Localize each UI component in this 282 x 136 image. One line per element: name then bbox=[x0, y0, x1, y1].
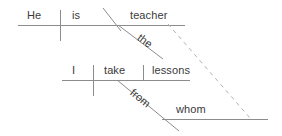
label-subject-clause: I bbox=[72, 65, 75, 76]
label-verb-clause: take bbox=[104, 65, 125, 76]
label-subject-main: He bbox=[27, 10, 41, 21]
label-predicate-nominative: teacher bbox=[130, 10, 167, 21]
sentence-diagram: He is teacher the I take lessons from wh… bbox=[0, 0, 282, 136]
predicate-nominative-slant bbox=[103, 8, 121, 31]
label-direct-object: lessons bbox=[152, 65, 190, 76]
label-object-of-preposition: whom bbox=[176, 104, 206, 115]
label-verb-main: is bbox=[72, 10, 80, 21]
